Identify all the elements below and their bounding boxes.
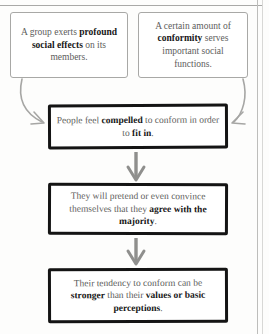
step-box-1-text: People feel compelled to conform in orde… [51,113,225,139]
step-box-3: Their tendency to conform can be stronge… [48,268,228,324]
curve-right-arrow [232,79,245,124]
down-arrow-2 [128,238,144,264]
premise-box-2-text: A certain amount of conformity serves im… [139,20,247,71]
step-box-2: They will pretend or even convince thems… [48,183,228,236]
premise-box-1: A group exerts profound social effects o… [10,12,128,78]
diagram-canvas: A group exerts profound social effects o… [0,0,269,334]
page-edge-line [257,0,258,334]
down-arrow-1 [128,152,144,180]
page-top-rule [0,5,262,6]
step-box-1: People feel compelled to conform in orde… [48,104,228,150]
step-box-2-text: They will pretend or even convince thems… [51,190,225,228]
page-edge-line-secondary [262,0,263,334]
curve-left-arrow [21,79,44,124]
step-box-3-text: Their tendency to conform can be stronge… [51,276,225,314]
premise-box-2: A certain amount of conformity serves im… [138,12,248,78]
premise-box-1-text: A group exerts profound social effects o… [11,26,127,64]
